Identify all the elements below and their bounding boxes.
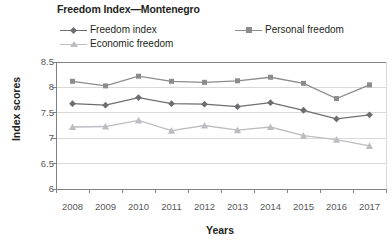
- data-point: [136, 74, 141, 79]
- data-point: [234, 103, 241, 110]
- data-point: [201, 101, 208, 108]
- data-point: [135, 94, 142, 101]
- data-point: [135, 117, 142, 124]
- plot-area: Index scores Years 66.577.588.5 20082009…: [0, 0, 392, 247]
- data-point: [334, 96, 339, 101]
- chart-container: Freedom Index—Montenegro Freedom index P…: [0, 0, 392, 247]
- data-point: [267, 99, 274, 106]
- data-point: [168, 100, 175, 107]
- data-point: [69, 100, 76, 107]
- series-freedom-index: [69, 94, 373, 122]
- data-point: [235, 78, 240, 83]
- data-point: [70, 79, 75, 84]
- plot-svg: [0, 0, 392, 247]
- data-point: [103, 83, 108, 88]
- series-economic-freedom: [69, 117, 373, 149]
- data-point: [202, 80, 207, 85]
- data-point: [102, 102, 109, 109]
- data-point: [333, 115, 340, 122]
- data-point: [367, 82, 372, 87]
- data-point: [169, 79, 174, 84]
- data-point: [301, 81, 306, 86]
- data-point: [268, 75, 273, 80]
